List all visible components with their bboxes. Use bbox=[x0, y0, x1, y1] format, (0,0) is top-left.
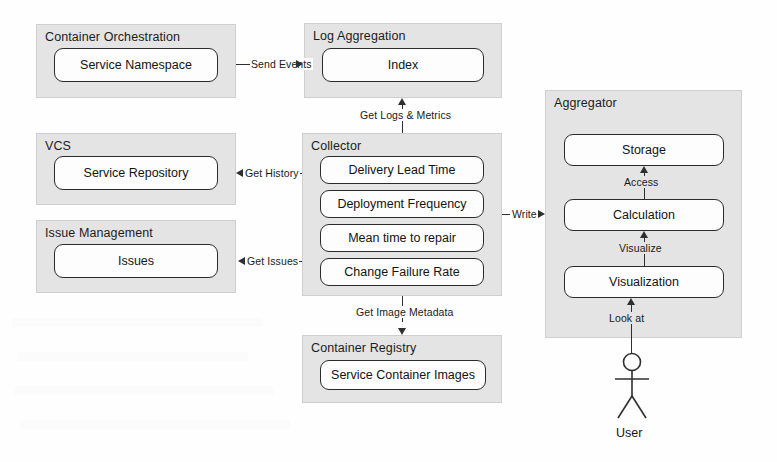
edge-label-look-at: Look at bbox=[608, 312, 645, 324]
scan-artifact bbox=[20, 420, 290, 429]
node-calculation[interactable]: Calculation bbox=[564, 199, 724, 231]
node-visualization[interactable]: Visualization bbox=[564, 266, 724, 298]
group-title-collector: Collector bbox=[311, 139, 361, 153]
edge-label-send-events: Send Events bbox=[250, 58, 313, 70]
edge-label-get-image-metadata: Get Image Metadata bbox=[355, 306, 455, 318]
node-storage[interactable]: Storage bbox=[564, 134, 724, 166]
arrowhead-left-get-history bbox=[236, 169, 243, 177]
arrowhead-left-get-issues bbox=[238, 257, 245, 265]
group-title-container-registry: Container Registry bbox=[311, 341, 416, 355]
arrowhead-down-get-image-metadata bbox=[398, 328, 406, 335]
group-title-log-aggregation: Log Aggregation bbox=[313, 29, 406, 43]
edge-label-access: Access bbox=[623, 176, 659, 188]
arrowhead-up-get-logs-metrics bbox=[398, 98, 406, 105]
node-service-namespace[interactable]: Service Namespace bbox=[54, 48, 218, 82]
edge-label-get-issues: Get Issues bbox=[246, 255, 299, 267]
group-title-issue-management: Issue Management bbox=[45, 226, 153, 240]
edge-label-get-logs-metrics: Get Logs & Metrics bbox=[359, 109, 452, 121]
group-title-aggregator: Aggregator bbox=[554, 96, 617, 110]
actor-label-user: User bbox=[616, 426, 642, 440]
edge-line-send-events bbox=[236, 64, 250, 65]
group-title-vcs: VCS bbox=[45, 139, 71, 153]
node-delivery-lead-time[interactable]: Delivery Lead Time bbox=[320, 156, 484, 184]
node-index[interactable]: Index bbox=[322, 48, 484, 82]
arrowhead-right-write bbox=[538, 210, 545, 218]
node-deployment-frequency[interactable]: Deployment Frequency bbox=[320, 190, 484, 218]
node-change-failure-rate[interactable]: Change Failure Rate bbox=[320, 258, 484, 286]
scan-artifact bbox=[18, 352, 248, 361]
node-service-container-images[interactable]: Service Container Images bbox=[320, 360, 486, 390]
arrowhead-up-look-at bbox=[627, 298, 635, 305]
node-mean-time-to-repair[interactable]: Mean time to repair bbox=[320, 224, 484, 252]
edge-label-get-history: Get History bbox=[244, 167, 300, 179]
scan-artifact bbox=[14, 386, 274, 395]
arrowhead-up-access bbox=[640, 166, 648, 173]
edge-label-write: Write bbox=[511, 208, 538, 220]
user-stick-figure-icon bbox=[598, 352, 666, 424]
edge-label-visualize: Visualize bbox=[618, 242, 663, 254]
edge-line-write bbox=[502, 214, 510, 215]
node-issues[interactable]: Issues bbox=[54, 244, 218, 278]
group-title-container-orchestration: Container Orchestration bbox=[45, 30, 180, 44]
diagram-canvas: Container Orchestration Service Namespac… bbox=[0, 0, 777, 462]
arrowhead-right-send-events bbox=[296, 60, 303, 68]
arrowhead-up-visualize bbox=[640, 231, 648, 238]
node-service-repository[interactable]: Service Repository bbox=[54, 156, 218, 190]
scan-artifact bbox=[12, 318, 262, 327]
